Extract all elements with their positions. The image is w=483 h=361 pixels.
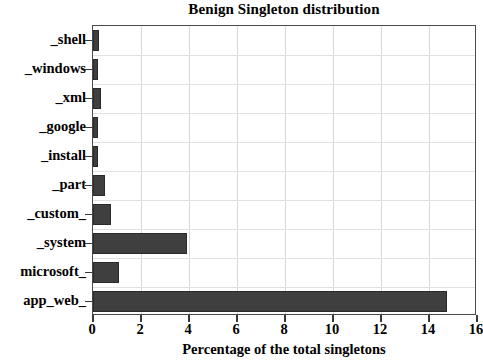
bar: [93, 30, 99, 51]
bar-row: [93, 287, 476, 315]
bar-row: [93, 113, 476, 142]
y-tick-mark: [85, 214, 92, 216]
y-tick-mark: [85, 40, 92, 42]
y-tick-mark: [85, 272, 92, 274]
bar-row: [93, 229, 476, 258]
bar: [93, 117, 98, 138]
bar-row: [93, 142, 476, 171]
x-tick-label: 16: [469, 321, 483, 338]
y-axis-label: _shell: [51, 25, 86, 54]
x-tick-label: 4: [184, 321, 191, 338]
bar: [93, 291, 447, 312]
x-tick-label: 8: [280, 321, 287, 338]
x-tick-label: 2: [136, 321, 143, 338]
benign-singleton-distribution-chart: Benign Singleton distribution _shell_win…: [0, 0, 483, 361]
x-axis-title: Percentage of the total singletons: [92, 341, 476, 358]
y-tick-mark: [85, 243, 92, 245]
x-tick-label: 10: [325, 321, 340, 338]
x-tick-label: 14: [421, 321, 436, 338]
bar-row: [93, 55, 476, 84]
x-axis: 0246810121416 Percentage of the total si…: [92, 315, 476, 361]
y-axis-label: _custom_: [27, 199, 86, 228]
y-tick-mark: [85, 185, 92, 187]
bar: [93, 262, 119, 283]
bar-row: [93, 171, 476, 200]
y-axis-label: app_web_: [23, 286, 86, 315]
y-axis-label: _xml: [55, 83, 86, 112]
bar-row: [93, 200, 476, 229]
y-axis-label: _windows: [25, 54, 86, 83]
y-tick-mark: [85, 69, 92, 71]
chart-title: Benign Singleton distribution: [92, 1, 476, 18]
bar-row: [93, 258, 476, 287]
y-axis-label: _google: [39, 112, 86, 141]
bar: [93, 88, 101, 109]
x-tick-label: 12: [373, 321, 388, 338]
y-axis-label: microsoft_: [20, 257, 86, 286]
bar: [93, 175, 105, 196]
bar-row: [93, 84, 476, 113]
y-tick-mark: [85, 156, 92, 158]
bar: [93, 233, 187, 254]
y-axis-category-labels: _shell_windows_xml_google_install_part_c…: [0, 25, 88, 315]
x-tick-label: 0: [88, 321, 95, 338]
y-axis-label: _part: [52, 170, 86, 199]
bar: [93, 59, 98, 80]
bar: [93, 204, 111, 225]
x-tick-label: 6: [232, 321, 239, 338]
y-tick-mark: [85, 127, 92, 129]
plot-area: [92, 25, 476, 315]
y-axis-label: _system: [37, 228, 86, 257]
bar: [93, 146, 98, 167]
y-tick-mark: [85, 301, 92, 303]
y-tick-mark: [85, 98, 92, 100]
y-axis-label: _install: [41, 141, 86, 170]
bar-row: [93, 26, 476, 55]
